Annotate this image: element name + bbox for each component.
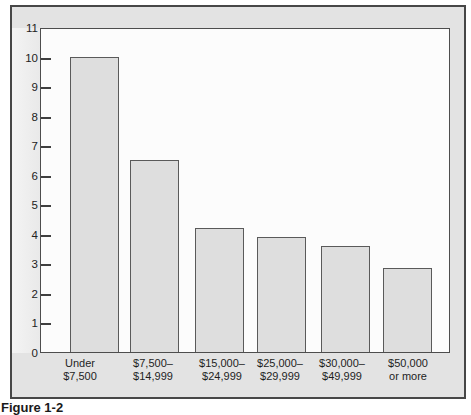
- x-axis-label-line: $50,000: [368, 357, 448, 370]
- y-tick-2: [41, 294, 51, 296]
- y-axis-label-6: 6: [10, 169, 38, 183]
- bar-6: [383, 268, 432, 352]
- y-axis-label-5: 5: [10, 198, 38, 212]
- left-margin-wash: [12, 28, 40, 353]
- x-axis-label-2: $7,500–$14,999: [113, 357, 193, 383]
- y-axis-label-8: 8: [10, 110, 38, 124]
- bar-4: [257, 237, 306, 352]
- y-tick-3: [41, 264, 51, 266]
- y-tick-1: [41, 323, 51, 325]
- bar-1: [70, 57, 119, 352]
- plot-area: [40, 28, 450, 353]
- x-axis-label-line: $7,500–: [113, 357, 193, 370]
- y-axis-label-0: 0: [10, 346, 38, 360]
- bar-5: [321, 246, 370, 352]
- y-tick-10: [41, 58, 51, 60]
- x-axis-label-line: $14,999: [113, 370, 193, 383]
- y-axis-label-4: 4: [10, 228, 38, 242]
- bar-2: [130, 160, 179, 352]
- y-axis-label-2: 2: [10, 287, 38, 301]
- y-tick-6: [41, 176, 51, 178]
- x-axis-label-6: $50,000or more: [368, 357, 448, 383]
- y-tick-8: [41, 117, 51, 119]
- y-tick-5: [41, 205, 51, 207]
- y-tick-9: [41, 87, 51, 89]
- y-axis-label-10: 10: [10, 51, 38, 65]
- y-tick-4: [41, 235, 51, 237]
- y-axis-label-7: 7: [10, 139, 38, 153]
- y-axis-label-9: 9: [10, 80, 38, 94]
- y-tick-7: [41, 146, 51, 148]
- y-axis-label-11: 11: [10, 21, 38, 35]
- x-axis-label-line: Under: [40, 357, 120, 370]
- x-axis-label-line: or more: [368, 370, 448, 383]
- x-axis-label-line: $7,500: [40, 370, 120, 383]
- y-axis-label-3: 3: [10, 257, 38, 271]
- y-axis-label-1: 1: [10, 316, 38, 330]
- bar-3: [195, 228, 244, 352]
- x-axis-label-1: Under$7,500: [40, 357, 120, 383]
- figure-caption-fragment: Figure 1-2: [1, 400, 63, 415]
